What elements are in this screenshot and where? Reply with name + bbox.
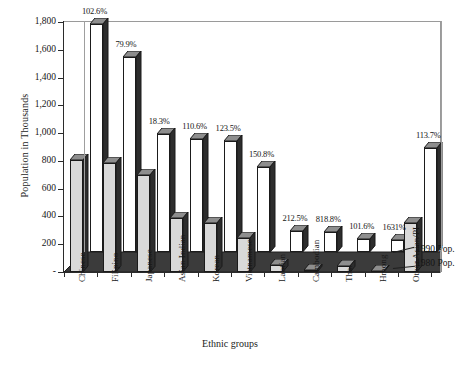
growth-percent-label: 110.6% <box>182 121 207 131</box>
category-label-chinese: Chinese <box>77 252 87 282</box>
growth-percent-label: 212.5% <box>282 213 307 223</box>
y-axis-tick-label: 200 <box>42 239 56 249</box>
y-axis-tick-label: 600 <box>42 184 56 194</box>
growth-percent-label: 101.6% <box>349 221 374 231</box>
y-axis-tick-mark <box>58 105 63 106</box>
x-axis-tick-mark <box>198 272 199 277</box>
bar-1990-cambodian <box>324 226 344 252</box>
y-axis-tick-mark <box>58 78 63 79</box>
growth-percent-label: 1631% <box>383 222 406 232</box>
category-label-thai: Thai <box>344 265 354 282</box>
x-axis-tick-mark <box>398 272 399 277</box>
category-label-asian-indian: Asian Indian <box>177 235 187 282</box>
x-axis-tick-mark <box>64 272 65 277</box>
x-axis-tick-mark <box>164 272 165 277</box>
category-label-filipino: Filipino <box>110 253 120 282</box>
y-axis-tick-mark <box>58 133 63 134</box>
y-axis-tick-label: 400 <box>42 211 56 221</box>
y-axis-tick-label: 1,600 <box>35 45 56 55</box>
x-axis-title: Ethnic groups <box>150 338 310 349</box>
y-axis-tick-mark <box>58 189 63 190</box>
bar-1990-laotian <box>290 225 310 252</box>
bar-3d-faces <box>290 225 311 254</box>
y-axis-tick-mark <box>58 22 63 23</box>
growth-percent-label: 818.8% <box>316 214 341 224</box>
y-axis-tick-label: 1,400 <box>35 73 56 83</box>
category-label-hmong: Hmong <box>378 255 388 283</box>
category-label-cambodian: Cambodian <box>311 240 321 282</box>
bar-1990-thai <box>357 233 377 252</box>
x-axis-tick-mark <box>264 272 265 277</box>
x-axis-tick-mark <box>97 272 98 277</box>
y-axis-tick-mark <box>58 50 63 51</box>
growth-percent-label: 123.5% <box>216 123 241 133</box>
growth-percent-label: 150.8% <box>249 149 274 159</box>
category-label-korean: Korean <box>211 255 221 282</box>
y-axis-title: Population in Thousands <box>19 56 30 236</box>
y-axis-tick-label: 1,200 <box>35 100 56 110</box>
plot-depth-guide-line <box>84 21 85 252</box>
x-axis-tick-mark <box>431 272 432 277</box>
x-axis-tick-mark <box>365 272 366 277</box>
bar-1990-vietnamese <box>257 161 277 252</box>
y-axis-tick-mark <box>58 272 63 273</box>
x-axis-tick-mark <box>331 272 332 277</box>
growth-percent-label: 102.6% <box>82 6 107 16</box>
growth-percent-label: 113.7% <box>416 130 441 140</box>
y-axis-tick-label: 1,800 <box>35 17 56 27</box>
category-label-other-asian-pi: Other Asian/PI <box>411 227 421 282</box>
legend-label-1990: 1990 Pop. <box>416 244 455 254</box>
category-label-vietnamese: Vietnamese <box>244 239 254 282</box>
growth-percent-label: 18.3% <box>149 116 170 126</box>
x-axis-tick-mark <box>131 272 132 277</box>
y-axis-line <box>63 21 64 273</box>
y-axis-tick-label: 1,000 <box>35 128 56 138</box>
category-label-japanese: Japanese <box>144 249 154 282</box>
y-axis-tick-mark <box>58 216 63 217</box>
bar-3d-faces <box>257 161 278 254</box>
y-axis-tick-label: 800 <box>42 156 56 166</box>
x-axis-tick-mark <box>231 272 232 277</box>
growth-percent-label: 79.9% <box>115 39 136 49</box>
legend-label-1980: 1980 Pop. <box>416 258 455 268</box>
bar-3d-faces <box>324 226 345 254</box>
bar-3d-faces <box>357 233 378 254</box>
x-axis-tick-mark <box>298 272 299 277</box>
y-axis-tick-label: - <box>53 267 56 277</box>
plot-depth-guide-line <box>441 21 442 252</box>
y-axis-tick-mark <box>58 161 63 162</box>
category-label-laotian: Laotian <box>277 254 287 282</box>
y-axis-tick-mark <box>58 244 63 245</box>
population-bar-chart: 1,8001,6001,4001,2001,000800600400200- C… <box>0 0 468 371</box>
